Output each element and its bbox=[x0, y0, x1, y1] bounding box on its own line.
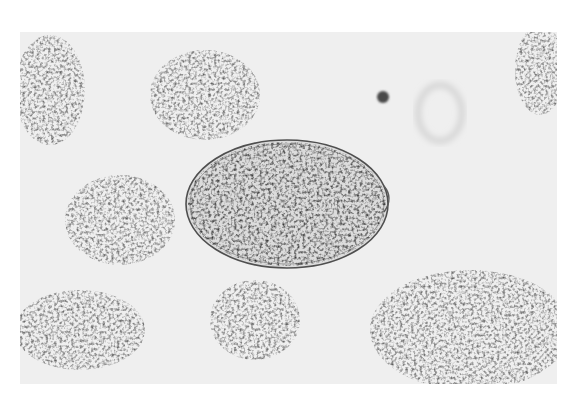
egg bbox=[186, 140, 389, 268]
debris-cluster bbox=[210, 280, 300, 360]
micrograph-image bbox=[20, 32, 557, 384]
micrograph-canvas bbox=[20, 32, 557, 384]
debris-cluster bbox=[65, 175, 175, 265]
debris-cluster bbox=[150, 50, 260, 140]
debris-cluster bbox=[20, 290, 145, 370]
dark-spot bbox=[377, 91, 389, 103]
